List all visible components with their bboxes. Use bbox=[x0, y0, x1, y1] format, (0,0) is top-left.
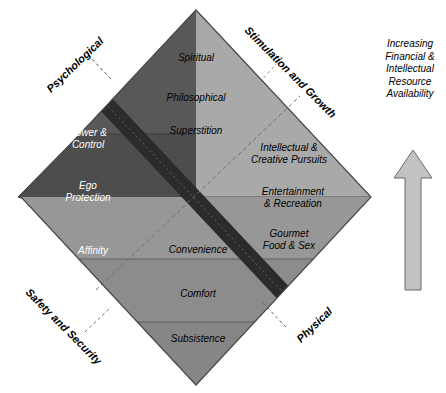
side-caption-line-2: Financial & bbox=[376, 51, 444, 64]
up-arrow-icon bbox=[394, 150, 432, 290]
side-caption-increasing-resources: Increasing Financial & Intellectual Reso… bbox=[376, 38, 444, 101]
side-caption-line-1: Increasing bbox=[376, 38, 444, 51]
side-caption-line-5: Availability bbox=[376, 88, 444, 101]
bottom-band-comfort bbox=[0, 259, 446, 322]
diagram-canvas: Spiritual Philosophical Superstition Pow… bbox=[0, 0, 446, 393]
side-caption-line-3: Intellectual bbox=[376, 63, 444, 76]
corner-tick-safety bbox=[85, 308, 110, 332]
side-caption-line-4: Resource bbox=[376, 76, 444, 89]
corner-tick-psychological bbox=[88, 55, 112, 80]
